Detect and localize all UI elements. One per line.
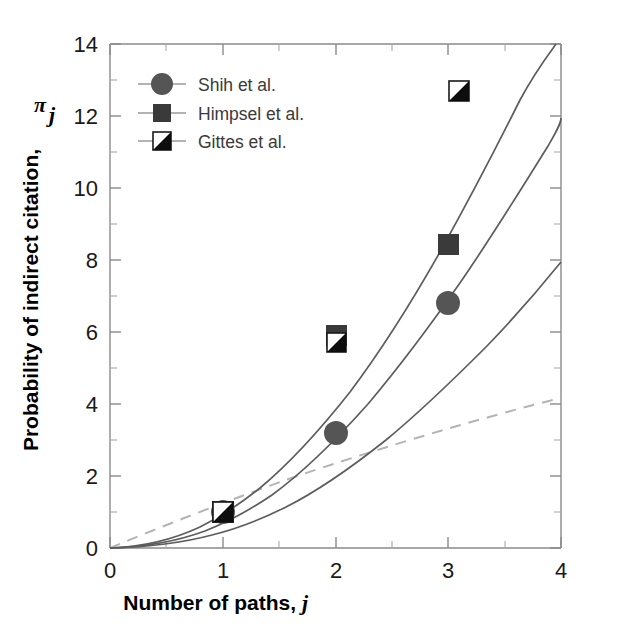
filled-circle-icon [151, 73, 173, 95]
y-tick-label: 4 [86, 392, 98, 417]
x-tick-label: 3 [442, 558, 454, 583]
x-tick-label: 1 [217, 558, 229, 583]
data-point-gittes-2 [327, 333, 346, 352]
y-tick-label: 0 [86, 536, 98, 561]
y-axis-title-main: Probability of indirect citation, [19, 149, 42, 451]
y-tick-label: 12 [74, 104, 98, 129]
legend-item-himpsel[interactable]: Himpsel et al. [138, 104, 304, 124]
y-tick-label: 10 [74, 176, 98, 201]
legend-label-himpsel: Himpsel et al. [198, 104, 304, 124]
y-tick-label: 2 [86, 464, 98, 489]
y-tick-label: 8 [86, 248, 98, 273]
chart-figure: 0 2 4 6 8 10 12 14 0 1 2 3 4 [0, 0, 622, 635]
y-axis-title: Probability of indirect citation, [19, 149, 42, 451]
x-tick-label: 2 [330, 558, 342, 583]
half-filled-square-icon [153, 132, 171, 150]
chart-svg: 0 2 4 6 8 10 12 14 0 1 2 3 4 [0, 0, 622, 635]
legend-item-gittes[interactable]: Gittes et al. [138, 132, 287, 152]
x-axis-title-main: Number of paths, [123, 591, 296, 614]
data-point-himpsel-3 [438, 234, 459, 255]
legend-label-gittes: Gittes et al. [198, 132, 287, 152]
data-point-gittes-1 [213, 502, 233, 522]
filled-square-icon [153, 104, 171, 122]
legend-label-shih: Shih et al. [198, 75, 276, 95]
y-tick-label: 6 [86, 320, 98, 345]
y-axis-title-pi: π [34, 92, 47, 117]
x-axis-title: Number of paths, j [123, 590, 309, 615]
y-tick-label: 14 [74, 32, 98, 57]
x-tick-label: 0 [104, 558, 116, 583]
legend-item-shih[interactable]: Shih et al. [138, 73, 276, 95]
data-point-shih-3 [436, 291, 460, 315]
x-tick-label: 4 [555, 558, 567, 583]
data-point-shih-2 [324, 421, 348, 445]
data-point-gittes-3 [449, 81, 469, 101]
